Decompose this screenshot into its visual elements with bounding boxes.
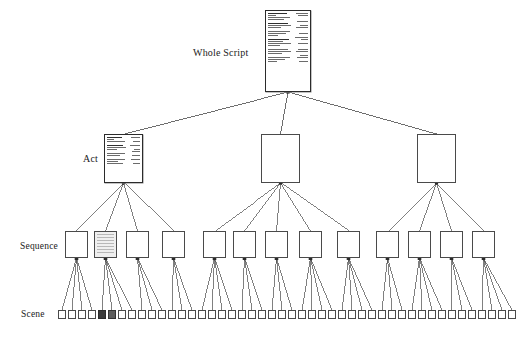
doc-text-line: [299, 61, 308, 62]
node-sequence-12[interactable]: [440, 231, 463, 258]
node-scene-9[interactable]: [138, 310, 146, 319]
node-scene-7[interactable]: [118, 310, 126, 319]
node-scene-1[interactable]: [58, 310, 66, 319]
act-column-left: [107, 137, 127, 180]
doc-text-line: [139, 153, 140, 154]
doc-text-line: [107, 149, 117, 150]
doc-text-line: [307, 35, 308, 36]
doc-text-line: [107, 153, 125, 154]
node-scene-30[interactable]: [348, 310, 356, 319]
node-scene-5[interactable]: [98, 310, 106, 319]
node-act-document[interactable]: [104, 134, 143, 183]
node-sequence-8[interactable]: [299, 231, 322, 258]
doc-text-line: [268, 59, 285, 60]
doc-text-line: [130, 145, 140, 146]
node-scene-42[interactable]: [468, 310, 476, 319]
node-scene-20[interactable]: [248, 310, 256, 319]
doc-text-line: [268, 25, 291, 26]
node-scene-34[interactable]: [388, 310, 396, 319]
doc-text-line: [307, 31, 308, 32]
node-scene-39[interactable]: [438, 310, 446, 319]
node-scene-18[interactable]: [228, 310, 236, 319]
node-scene-43[interactable]: [478, 310, 486, 319]
doc-text-line: [268, 45, 280, 46]
node-scene-36[interactable]: [408, 310, 416, 319]
node-scene-31[interactable]: [358, 310, 366, 319]
node-sequence-3[interactable]: [126, 231, 149, 258]
doc-text-line: [299, 33, 308, 34]
node-sequence-5[interactable]: [203, 231, 226, 258]
doc-text-line: [268, 37, 269, 38]
node-scene-41[interactable]: [458, 310, 466, 319]
node-scene-17[interactable]: [218, 310, 226, 319]
act-page-content: [107, 137, 140, 180]
node-scene-24[interactable]: [288, 310, 296, 319]
act-column-right: [127, 137, 140, 180]
doc-text-line: [297, 57, 308, 58]
doc-text-line: [268, 51, 291, 52]
node-act-box-3[interactable]: [417, 134, 456, 183]
node-scene-10[interactable]: [148, 310, 156, 319]
doc-text-line: [139, 157, 140, 158]
node-scene-15[interactable]: [198, 310, 206, 319]
node-sequence-9[interactable]: [337, 231, 360, 258]
doc-text-line: [268, 61, 277, 62]
doc-text-line: [139, 161, 140, 162]
node-scene-37[interactable]: [418, 310, 426, 319]
node-scene-29[interactable]: [338, 310, 346, 319]
doc-text-line: [133, 141, 140, 142]
node-scene-44[interactable]: [488, 310, 496, 319]
node-whole-script-document[interactable]: [265, 10, 311, 92]
doc-text-line: [307, 17, 308, 18]
node-scene-28[interactable]: [328, 310, 336, 319]
node-sequence-11[interactable]: [408, 231, 431, 258]
doc-text-line: [296, 51, 308, 52]
doc-text-line: [107, 141, 125, 142]
doc-text-line: [107, 159, 125, 160]
node-scene-13[interactable]: [178, 310, 186, 319]
node-scene-6[interactable]: [108, 310, 116, 319]
doc-text-line: [298, 15, 308, 16]
node-scene-45[interactable]: [498, 310, 506, 319]
doc-text-line: [139, 139, 140, 140]
node-scene-3[interactable]: [78, 310, 86, 319]
node-scene-23[interactable]: [278, 310, 286, 319]
node-sequence-13[interactable]: [472, 231, 495, 258]
node-scene-12[interactable]: [168, 310, 176, 319]
node-sequence-4[interactable]: [162, 231, 185, 258]
node-sequence-7[interactable]: [265, 231, 288, 258]
node-sequence-10[interactable]: [376, 231, 399, 258]
node-scene-2[interactable]: [68, 310, 76, 319]
doc-text-line: [268, 39, 289, 40]
node-scene-32[interactable]: [368, 310, 376, 319]
node-scene-27[interactable]: [318, 310, 326, 319]
node-scene-16[interactable]: [208, 310, 216, 319]
node-scene-33[interactable]: [378, 310, 386, 319]
node-scene-25[interactable]: [298, 310, 306, 319]
doc-text-line: [307, 47, 308, 48]
node-sequence-6[interactable]: [233, 231, 256, 258]
node-scene-46[interactable]: [508, 310, 516, 319]
node-sequence-2[interactable]: [94, 231, 117, 258]
node-scene-19[interactable]: [238, 310, 246, 319]
node-scene-40[interactable]: [448, 310, 456, 319]
node-scene-22[interactable]: [268, 310, 276, 319]
node-scene-35[interactable]: [398, 310, 406, 319]
node-scene-21[interactable]: [258, 310, 266, 319]
node-scene-26[interactable]: [308, 310, 316, 319]
node-scene-8[interactable]: [128, 310, 136, 319]
node-scene-38[interactable]: [428, 310, 436, 319]
doc-text-line: [268, 43, 291, 44]
node-scene-14[interactable]: [188, 310, 196, 319]
doc-text-line: [307, 29, 308, 30]
node-scene-11[interactable]: [158, 310, 166, 319]
doc-text-line: [133, 163, 140, 164]
node-act-box-2[interactable]: [261, 134, 300, 183]
doc-text-line: [301, 39, 308, 40]
doc-text-line: [268, 27, 281, 28]
doc-text-line: [297, 21, 308, 22]
node-scene-4[interactable]: [88, 310, 96, 319]
doc-text-line: [132, 151, 140, 152]
doc-text-line: [298, 49, 308, 50]
node-sequence-1[interactable]: [65, 231, 88, 258]
